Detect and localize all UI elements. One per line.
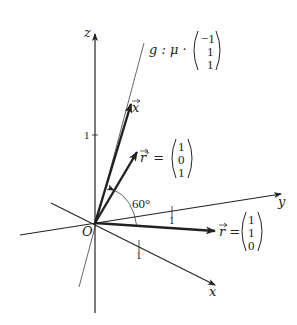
x-tick-label: 1	[136, 249, 142, 261]
vector-x-arrow	[95, 104, 131, 223]
vector-r-equation: r = 1 1 0	[219, 212, 262, 253]
right-paren	[188, 139, 192, 178]
svg-text:x: x	[132, 100, 140, 115]
g-dir-3: 1	[207, 57, 214, 72]
z-axis-label: z	[83, 25, 91, 40]
z-axis	[92, 34, 98, 313]
left-paren	[172, 139, 176, 178]
left-paren	[242, 212, 246, 251]
line-g-equation: g : μ · −1 1 1	[149, 31, 220, 72]
svg-text:0: 0	[248, 238, 255, 253]
vector-r-arrow	[95, 223, 215, 231]
line-g-label: g : μ ·	[149, 42, 187, 57]
x-axis	[51, 203, 215, 285]
svg-text:r =: r =	[219, 224, 240, 239]
right-paren	[258, 212, 262, 251]
vector-x-label: x	[132, 99, 140, 115]
coordinate-diagram: z 1 y 1 x 1 O g : μ · −1 1 1 x r′ = 1 0 …	[0, 0, 297, 325]
left-paren	[194, 31, 198, 70]
origin-label: O	[82, 224, 93, 239]
right-paren	[216, 31, 220, 70]
vector-r-prime-equation: r′ = 1 0 1	[140, 139, 192, 180]
angle-label: 60°	[132, 196, 150, 211]
z-tick-label: 1	[84, 129, 90, 141]
vector-r-prime-arrow	[95, 152, 137, 223]
svg-text:1: 1	[178, 165, 185, 180]
y-axis-label: y	[277, 194, 286, 209]
y-tick-label: 1	[169, 214, 175, 226]
svg-text:r′ =: r′ =	[140, 150, 164, 165]
x-axis-label: x	[209, 284, 217, 299]
